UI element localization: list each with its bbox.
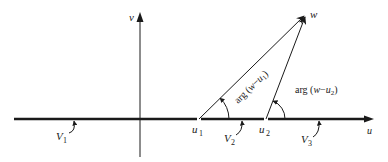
u1-label: u 1 bbox=[192, 123, 203, 138]
V2-label: V 2 bbox=[224, 132, 235, 147]
V3-sub: 3 bbox=[308, 139, 312, 148]
arg-w-minus-u1-label: arg (w−u1) bbox=[232, 68, 272, 107]
u2-sub: 2 bbox=[266, 129, 270, 138]
u2-label: u 2 bbox=[259, 123, 270, 138]
u-axis-label: u bbox=[367, 125, 372, 136]
V1-pointer bbox=[69, 121, 74, 133]
arg-w-minus-u2-label: arg (w−u2) bbox=[295, 84, 338, 97]
V1-label: V 1 bbox=[56, 130, 67, 145]
angle-arc-u2 bbox=[273, 101, 285, 119]
V3-label: V 3 bbox=[301, 133, 312, 148]
w-label: w bbox=[310, 8, 318, 20]
V1-sub: 1 bbox=[63, 136, 67, 145]
u1-sub: 1 bbox=[199, 129, 203, 138]
complex-plane-diagram: v u w u 1 u 2 V 1 V 2 V 3 arg (w−u1) bbox=[0, 0, 388, 162]
vector-w-minus-u2 bbox=[266, 17, 305, 119]
V3-pointer bbox=[313, 121, 319, 137]
u-axis bbox=[14, 116, 374, 123]
u1-base: u bbox=[192, 123, 198, 135]
u-axis-arrow-icon bbox=[364, 116, 374, 123]
arg1-text: arg (w−u1) bbox=[232, 68, 272, 107]
v-axis-label: v bbox=[129, 11, 134, 23]
V2-pointer bbox=[236, 121, 242, 135]
diagram-canvas: v u w u 1 u 2 V 1 V 2 V 3 arg (w−u1) bbox=[0, 0, 388, 162]
vector-w-minus-u1 bbox=[199, 16, 304, 119]
v-axis bbox=[137, 12, 144, 157]
v-axis-arrow-icon bbox=[137, 12, 144, 22]
u2-base: u bbox=[259, 123, 265, 135]
V2-sub: 2 bbox=[231, 138, 235, 147]
arg2-text: arg (w−u2) bbox=[295, 84, 338, 97]
angle-arc-u1 bbox=[220, 98, 229, 119]
